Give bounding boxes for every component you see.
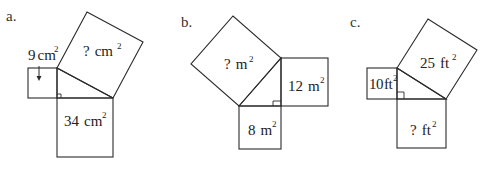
right-triangle-a — [57, 68, 113, 98]
label-bottom-b: 8m — [248, 122, 273, 138]
label-hypotenuse-b: ?m — [224, 56, 248, 72]
label-hypotenuse-c-exponent: 2 — [452, 52, 457, 62]
part-label-b: b. — [181, 14, 192, 30]
figure-c: c. 25ft 2 10ft 2 ?ft 2 — [350, 14, 477, 148]
pythagorean-squares-diagram: a. 9cm 2 ?cm 2 34cm 2 b. ?m — [0, 0, 491, 169]
label-hypotenuse-a: ?cm — [83, 43, 113, 59]
label-bottom-a: 34cm — [64, 113, 103, 129]
label-left-a-exponent: 2 — [54, 44, 59, 54]
label-hypotenuse-c: 25ft — [420, 55, 450, 71]
label-right-b: 12m — [288, 78, 320, 94]
label-bottom-c-exponent: 2 — [432, 119, 437, 129]
label-left-c-exponent: 2 — [393, 73, 398, 83]
label-bottom-b-exponent: 2 — [272, 119, 277, 129]
label-bottom-c: ?ft — [410, 122, 432, 138]
part-label-a: a. — [6, 8, 16, 24]
right-angle-marker-b — [273, 101, 281, 106]
label-right-b-exponent: 2 — [320, 75, 325, 85]
figure-b: b. ?m 2 12m 2 8m 2 — [181, 14, 328, 149]
right-angle-marker-c — [397, 92, 404, 99]
square-left-a — [28, 68, 57, 98]
figure-a: a. 9cm 2 ?cm 2 34cm 2 — [6, 8, 143, 157]
label-hypotenuse-b-exponent: 2 — [249, 54, 254, 64]
part-label-c: c. — [350, 14, 360, 30]
label-left-a: 9cm — [28, 47, 56, 63]
label-left-c: 10ft — [369, 76, 393, 92]
label-hypotenuse-a-exponent: 2 — [117, 41, 122, 51]
right-angle-marker-a — [57, 94, 61, 98]
label-bottom-a-exponent: 2 — [102, 110, 107, 120]
square-hypotenuse-c — [397, 19, 477, 99]
